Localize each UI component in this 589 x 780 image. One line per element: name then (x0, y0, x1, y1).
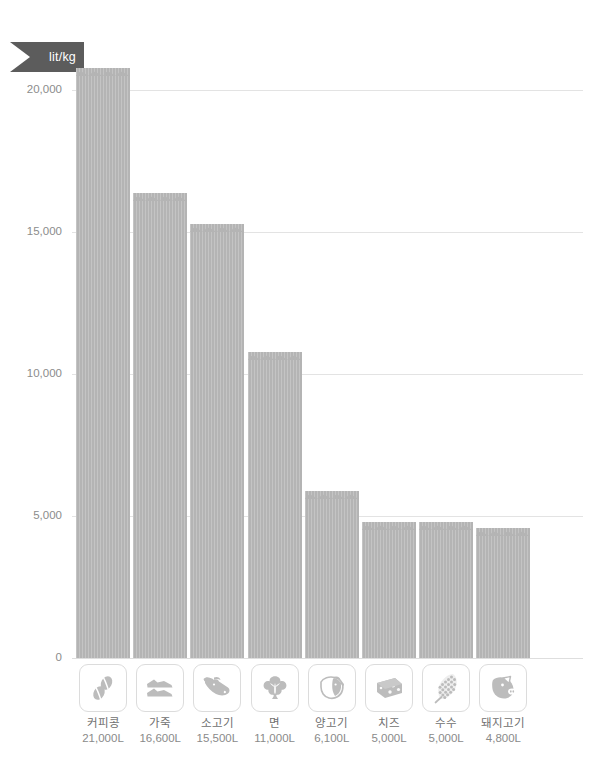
bar-wavy-top (419, 523, 473, 530)
bar-top-edge (76, 62, 130, 80)
bar-top-edge (305, 485, 359, 503)
bar-wavy-top (76, 69, 130, 76)
leather-shoe-icon (144, 673, 176, 703)
bar-top-edge (419, 516, 473, 534)
icon-box-leather-shoe[interactable] (136, 664, 184, 712)
bar-wavy-top (248, 353, 302, 360)
y-axis-tick-5000: 5,000 (0, 510, 62, 522)
y-axis-tick-20000: 20,000 (0, 84, 62, 96)
sheep-head-icon (317, 673, 347, 703)
bar-wavy-top (133, 194, 187, 201)
category-name: 돼지고기 (460, 716, 546, 731)
icon-box-sheep-head[interactable] (308, 664, 356, 712)
category-label-row: 커피콩21,000L가죽16,600L소고기15,500L면11,000L양고기… (0, 716, 589, 756)
coffee-bean-icon (88, 673, 118, 703)
gridline-0 (72, 658, 583, 659)
bar-body (248, 352, 302, 658)
sorghum-grain-icon (431, 672, 461, 704)
bar-wavy-top (305, 492, 359, 499)
icon-box-coffee-bean[interactable] (79, 664, 127, 712)
y-axis-tick-0: 0 (0, 652, 62, 664)
bar-body (305, 491, 359, 658)
bar-body (76, 68, 130, 658)
y-axis-tick-15000: 15,000 (0, 226, 62, 238)
bar-body (362, 522, 416, 658)
bar-wavy-top (190, 225, 244, 232)
cheese-wedge-icon (373, 675, 405, 701)
bar-body (419, 522, 473, 658)
bar-top-edge (476, 522, 530, 540)
bar-body (476, 528, 530, 658)
bar-body (133, 193, 187, 658)
pig-head-icon (488, 674, 518, 702)
bar-top-edge (248, 346, 302, 364)
icon-box-cheese-wedge[interactable] (365, 664, 413, 712)
bar-wavy-top (476, 529, 530, 536)
bar-top-edge (190, 218, 244, 236)
icon-box-sorghum-grain[interactable] (422, 664, 470, 712)
icon-box-pig-head[interactable] (479, 664, 527, 712)
icon-box-cotton-boll[interactable] (251, 664, 299, 712)
category-label-pig-head: 돼지고기4,800L (460, 716, 546, 746)
cotton-boll-icon (260, 673, 290, 703)
icon-box-cow-head[interactable] (193, 664, 241, 712)
bar-wavy-top (362, 523, 416, 530)
cow-head-icon (201, 674, 233, 702)
bar-body (190, 224, 244, 658)
gridline-20000 (72, 90, 583, 91)
category-icon-row (0, 664, 589, 714)
bar-top-edge (362, 516, 416, 534)
bar-top-edge (133, 187, 187, 205)
y-axis-tick-10000: 10,000 (0, 368, 62, 380)
category-value: 4,800L (460, 731, 546, 746)
